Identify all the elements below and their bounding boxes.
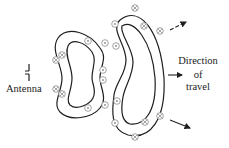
out-of-page-field-symbols [85,21,121,127]
into-page-field-symbols [53,5,164,141]
antenna-icon [25,64,29,81]
direction-label-line3: travel [172,82,224,92]
antenna-label: Antenna [6,84,42,94]
direction-label-line2: of [186,70,210,80]
direction-label-line1: Direction [172,56,224,66]
outer-field-loop [113,16,164,136]
inner-field-loop [55,31,103,117]
